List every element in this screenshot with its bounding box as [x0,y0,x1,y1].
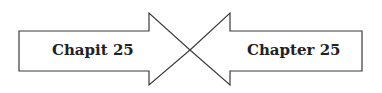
left-arrow-label: Chapit 25 [52,41,134,59]
right-arrow-label: Chapter 25 [247,41,341,59]
